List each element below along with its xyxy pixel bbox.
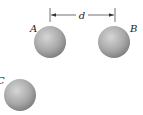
arrowhead-right-icon [109,13,114,16]
dimension-label: d [79,10,85,21]
dimension-d: d [50,8,115,22]
diagram-canvas: d A B C [0,0,143,115]
arrowhead-left-icon [51,13,56,16]
sphere-b: B [98,23,137,58]
sphere-c: C [0,75,36,111]
sphere-c-label: C [0,75,5,86]
sphere-a: A [29,23,66,58]
sphere-b-body [98,26,130,58]
sphere-a-body [34,26,66,58]
sphere-a-label: A [29,23,37,34]
sphere-b-label: B [129,23,137,34]
sphere-c-body [4,79,36,111]
